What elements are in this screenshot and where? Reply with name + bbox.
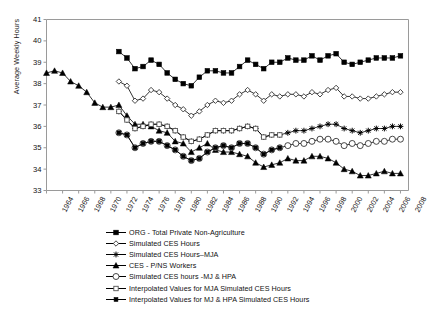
legend-item[interactable]: Simulated CES Hours–MJA [106, 249, 406, 260]
legend-label: Simulated CES hours -MJ & HPA [129, 272, 236, 281]
legend-item[interactable]: ORG - Total Private Non-Agriculture [106, 227, 406, 238]
legend-item[interactable]: Simulated CES hours -MJ & HPA [106, 271, 406, 282]
legend-marker-open-circle-large-icon [106, 271, 126, 282]
legend-label: ORG - Total Private Non-Agriculture [129, 228, 245, 237]
legend-item[interactable]: Interpolated Values for MJA Simulated CE… [106, 282, 406, 293]
legend-item[interactable]: Interpolated Values for MJ & HPA Simulat… [106, 294, 406, 305]
legend-marker-open-diamond-icon [106, 238, 126, 249]
legend-label: Simulated CES Hours–MJA [129, 250, 218, 259]
legend-label: CES - P/NS Workers [129, 261, 196, 270]
axis-frame [47, 20, 409, 191]
legend-label: Interpolated Values for MJ & HPA Simulat… [129, 295, 310, 304]
legend-marker-filled-triangle-icon [106, 260, 126, 271]
legend-marker-filled-square-icon [106, 227, 126, 238]
legend-item[interactable]: Simulated CES Hours [106, 238, 406, 249]
chart-figure: Average Weekly Hours 333435363738394041 … [0, 0, 430, 318]
chart-legend: ORG - Total Private Non-AgricultureSimul… [106, 227, 406, 305]
series-3 [44, 68, 404, 178]
legend-marker-star-icon [106, 249, 126, 260]
legend-marker-open-square-small-icon [106, 283, 126, 294]
series-1 [116, 79, 403, 119]
legend-item[interactable]: CES - P/NS Workers [106, 260, 406, 271]
series-0 [117, 49, 403, 88]
legend-marker-filled-square-small-icon [106, 294, 126, 305]
legend-label: Interpolated Values for MJA Simulated CE… [129, 284, 291, 293]
axis-ticks [44, 20, 401, 194]
legend-label: Simulated CES Hours [129, 239, 200, 248]
